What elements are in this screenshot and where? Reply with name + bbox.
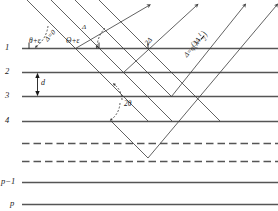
plane-label-3: 3 [5, 91, 9, 100]
plane-label-p-minus-1: p−1 [1, 177, 15, 186]
angle-label-incident-right: Θ+ε [66, 37, 79, 45]
reflected-ray-4 [148, 6, 276, 158]
plane-label-1: 1 [5, 43, 9, 52]
angle-arc-two-theta-upper [115, 85, 122, 100]
incident-rays [27, 0, 220, 158]
d-spacing-label: d [41, 79, 45, 87]
intersection-ticks [29, 43, 148, 49]
reflected-rays [76, 6, 277, 158]
incident-ray-4 [99, 0, 220, 121]
incident-ray-deep-focus [111, 121, 148, 158]
plane-label-2: 2 [5, 67, 9, 76]
angle-label-scattering: 2θ [124, 100, 131, 108]
angle-arc-two-theta [112, 103, 120, 119]
plane-label-p: p [10, 199, 14, 208]
angle-label-incident-left: θ+ε [29, 37, 41, 45]
diagram-canvas [0, 0, 278, 211]
path-difference-label-one: Δ [82, 24, 86, 31]
lattice-planes [22, 49, 278, 205]
reflected-ray-2 [124, 6, 197, 73]
plane-label-4: 4 [5, 116, 9, 125]
bragg-diffraction-diagram: 1 2 3 4 p−1 p θ+ε Θ+ε 2θ d Δ=0 Δ 2Δ 3Δ Δ… [0, 0, 278, 211]
angle-arc-theta-epsilon-right [97, 28, 105, 46]
incident-ray-deep-focus-2 [160, 109, 172, 121]
incident-ray-2 [51, 0, 124, 73]
d-spacing-arrow [35, 73, 39, 97]
incident-ray-1-deep [136, 109, 148, 121]
